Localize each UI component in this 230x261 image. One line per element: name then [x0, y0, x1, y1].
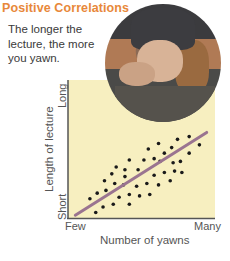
- data-point: [103, 179, 107, 183]
- yawning-person-photo: [105, 4, 221, 122]
- data-point: [113, 182, 117, 186]
- data-point: [157, 142, 161, 146]
- y-axis-label: Length of lecture: [43, 106, 55, 192]
- data-point: [117, 196, 121, 200]
- x-tick-many: Many: [194, 220, 221, 232]
- data-point: [163, 171, 167, 175]
- data-point: [104, 189, 108, 193]
- data-point: [111, 202, 115, 206]
- data-point: [123, 168, 127, 172]
- x-tick-few: Few: [65, 220, 86, 232]
- data-point: [94, 211, 98, 215]
- x-axis-label: Number of yawns: [100, 234, 189, 246]
- data-point: [187, 151, 191, 155]
- data-point: [88, 197, 92, 201]
- data-point: [101, 205, 105, 209]
- data-point: [180, 171, 184, 175]
- data-point: [179, 160, 183, 164]
- data-point: [173, 169, 177, 173]
- y-tick-long: Long: [56, 84, 68, 108]
- data-point: [198, 143, 202, 147]
- data-point: [110, 172, 114, 176]
- data-point: [95, 191, 99, 195]
- data-point: [152, 157, 156, 161]
- data-point: [128, 193, 132, 197]
- data-point: [138, 194, 142, 198]
- data-point: [128, 158, 132, 162]
- data-point: [128, 202, 132, 206]
- data-point: [135, 184, 139, 188]
- data-point: [187, 135, 191, 139]
- y-tick-short: Short: [56, 194, 68, 220]
- data-point: [148, 193, 152, 197]
- data-point: [147, 147, 151, 151]
- data-point: [163, 151, 167, 155]
- data-point: [142, 158, 146, 162]
- data-point: [123, 175, 127, 179]
- data-point: [114, 165, 118, 169]
- data-point: [157, 183, 161, 187]
- data-point: [145, 182, 149, 186]
- trend-line: [75, 132, 206, 215]
- data-point: [176, 138, 180, 142]
- data-point: [136, 168, 140, 172]
- data-point: [168, 179, 172, 183]
- data-point: [170, 146, 174, 150]
- data-point: [171, 161, 175, 165]
- data-point: [152, 173, 156, 177]
